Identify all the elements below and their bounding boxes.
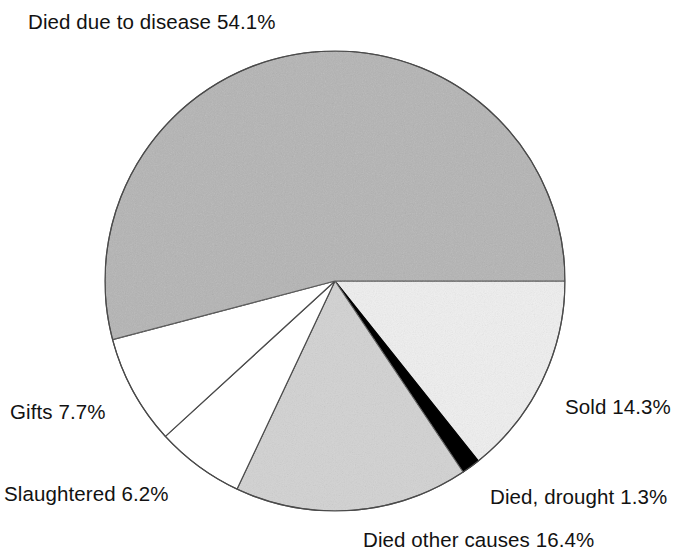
pie-chart-svg	[0, 0, 692, 560]
pie-label-died-other-causes: Died other causes 16.4%	[363, 528, 594, 552]
pie-label-died-drought: Died, drought 1.3%	[490, 485, 667, 509]
pie-slices-group	[105, 51, 565, 511]
pie-label-slaughtered: Slaughtered 6.2%	[4, 482, 169, 506]
pie-chart-figure: Died due to disease 54.1% Gifts 7.7% Sla…	[0, 0, 692, 560]
pie-label-sold: Sold 14.3%	[565, 395, 671, 419]
pie-label-gifts: Gifts 7.7%	[10, 400, 106, 424]
pie-label-died-due-to-disease: Died due to disease 54.1%	[28, 10, 276, 34]
